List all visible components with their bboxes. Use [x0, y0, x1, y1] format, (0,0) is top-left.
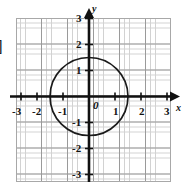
axes-and-curve-overlay	[0, 0, 185, 187]
x-tick-label-3: 3	[164, 106, 170, 117]
x-tick-label-neg1: -1	[58, 106, 67, 117]
figure-canvas: ] -3 -2 -1 1 2	[0, 0, 185, 187]
x-tick-label-neg2: -2	[32, 106, 41, 117]
y-tick-label-2: 2	[76, 39, 82, 50]
y-tick-label-neg2: -2	[72, 143, 81, 154]
origin-label: 0	[93, 100, 99, 111]
y-tick-label-neg3: -3	[72, 169, 81, 180]
x-tick-label-1: 1	[113, 106, 119, 117]
y-axis-label: y	[92, 4, 96, 14]
x-axis-arrowhead	[170, 92, 180, 102]
x-tick-label-neg3: -3	[12, 106, 21, 117]
y-tick-label-neg1: -1	[72, 117, 81, 128]
y-tick-label-3: 3	[76, 13, 82, 24]
x-tick-label-2: 2	[139, 106, 145, 117]
y-tick-label-1: 1	[76, 65, 82, 76]
x-axis-label: x	[176, 103, 181, 113]
